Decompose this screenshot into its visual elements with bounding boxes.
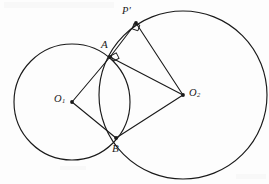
segment-a-o2	[110, 57, 183, 95]
point-dot-a	[108, 55, 112, 59]
point-label-p-prime: P′	[122, 6, 131, 17]
point-dot-b	[114, 136, 118, 140]
point-label-a: A	[101, 39, 108, 50]
center-label-o1: O1	[54, 94, 65, 105]
point-dot-p	[134, 21, 138, 25]
point-label-b: B	[112, 143, 119, 154]
point-dot-o2	[181, 93, 185, 97]
point-dots-group	[70, 21, 185, 140]
segment-o1-b	[72, 102, 116, 138]
center-label-o1-base: O	[54, 93, 62, 104]
segment-p-o2	[136, 23, 183, 95]
center-label-o2-subscript: 2	[197, 91, 200, 98]
segments-group	[72, 23, 183, 138]
point-dot-o1	[70, 100, 74, 104]
geometry-canvas	[0, 0, 269, 184]
circles-group	[14, 11, 267, 179]
center-label-o2-base: O	[189, 87, 197, 98]
right-angle-marks-group	[111, 23, 140, 61]
center-label-o1-subscript: 1	[62, 97, 65, 104]
geometry-figure: A B P′ O1 O2	[0, 0, 269, 184]
center-label-o2: O2	[189, 88, 200, 99]
segment-b-o2	[116, 95, 183, 138]
segment-o1-a	[72, 57, 110, 102]
